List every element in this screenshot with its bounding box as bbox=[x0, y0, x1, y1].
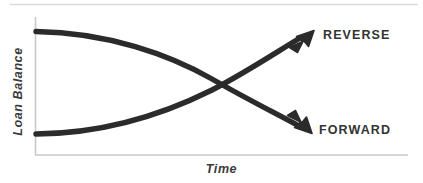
forward-curve-group bbox=[36, 38, 300, 134]
reverse-series-label: REVERSE bbox=[323, 28, 390, 42]
forward-series-label: FORWARD bbox=[319, 123, 391, 137]
chart-figure: Loan Balance Time REVERSE FORWARD bbox=[0, 0, 423, 183]
y-axis-title: Loan Balance bbox=[10, 0, 26, 183]
forward-curve bbox=[36, 38, 300, 134]
x-axis-title: Time bbox=[35, 162, 408, 176]
